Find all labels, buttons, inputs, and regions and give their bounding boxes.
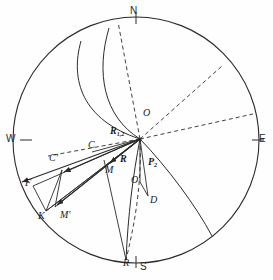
vector-label-r12-base: R [110, 125, 117, 136]
arrow-to-m-prime [57, 139, 140, 205]
vector-label-r12: R1,2 [110, 126, 124, 137]
line-m-to-r [104, 160, 126, 260]
point-label-origin-upper: O [143, 108, 150, 118]
point-label-m: M [105, 165, 113, 175]
dashed-ray-northeast [140, 66, 222, 139]
point-label-o-lower: O [131, 175, 138, 185]
vector-label-r: R [120, 154, 127, 165]
compass-label-east: E [259, 134, 266, 144]
point-label-k: K [38, 211, 45, 221]
line-f-to-k [33, 186, 46, 211]
line-c-to-o [92, 139, 140, 152]
point-label-c: C [88, 140, 95, 150]
vector-arrows [22, 139, 140, 205]
vector-label-p2: P2 [148, 157, 157, 168]
compass-label-north: N [130, 6, 137, 16]
vector-label-r12-sub: 1,2 [117, 131, 125, 137]
point-dots [138, 137, 141, 140]
compass-label-south: S [140, 262, 147, 272]
dot-origin [138, 137, 141, 140]
stereographic-projection-figure: N S E W O C C' F K M' M O D R R1,2 R P2 [0, 0, 273, 280]
point-label-d: D [150, 195, 157, 205]
dashed-rays [48, 22, 253, 260]
point-label-m-prime: M' [60, 210, 70, 220]
arrow-to-c-prime [64, 139, 140, 172]
line-o-to-d [140, 139, 148, 196]
diagram-canvas [0, 0, 273, 280]
great-circle-arc-left-inner [103, 28, 140, 139]
great-circle-arc-lower-right [140, 139, 212, 236]
great-circle-arcs [77, 28, 212, 260]
dashed-ray-north [118, 22, 140, 139]
point-label-c-prime: C' [49, 153, 58, 163]
compass-ticks [20, 12, 264, 268]
compass-label-west: W [6, 134, 15, 144]
vector-label-r-base: R [120, 153, 127, 164]
dashed-ray-east [140, 114, 253, 139]
point-label-f: F [25, 178, 31, 188]
dashed-arc-south [126, 139, 140, 260]
vector-label-p2-sub: 2 [154, 162, 157, 168]
great-circle-arc-south [126, 139, 140, 260]
point-label-r-bottom: R [123, 258, 129, 268]
